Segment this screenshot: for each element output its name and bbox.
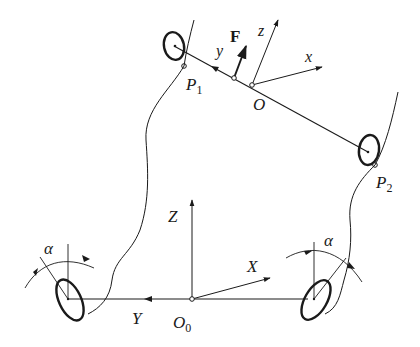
wheel-bottom-left <box>25 244 94 325</box>
global-Z-label: Z <box>168 207 178 226</box>
flexible-cables <box>88 20 398 314</box>
global-frame <box>190 200 270 301</box>
local-x-label: x <box>304 48 312 65</box>
global-origin-label: O0 <box>173 313 191 335</box>
force-vector <box>232 46 246 80</box>
wheel-bottom-right <box>286 242 362 325</box>
local-origin-label: O <box>253 95 265 114</box>
global-X-label: X <box>246 257 258 276</box>
mechanism-diagram: F y z x O P1 P2 Z X Y O0 α α <box>0 0 420 347</box>
alpha-right-label: α <box>324 231 334 250</box>
p2-label: P2 <box>375 173 392 195</box>
global-Y-label: Y <box>132 309 143 328</box>
wheel-p2 <box>357 134 381 168</box>
local-z-label: z <box>257 22 265 39</box>
local-y-label: y <box>214 42 224 60</box>
upper-link <box>174 46 368 152</box>
alpha-left-label: α <box>44 239 54 258</box>
wheel-p1 <box>161 30 186 68</box>
p1-label: P1 <box>185 75 202 97</box>
force-label: F <box>230 27 240 46</box>
y-axis-arrow-icon <box>211 66 219 72</box>
Y-axis-arrow-icon <box>144 296 152 302</box>
